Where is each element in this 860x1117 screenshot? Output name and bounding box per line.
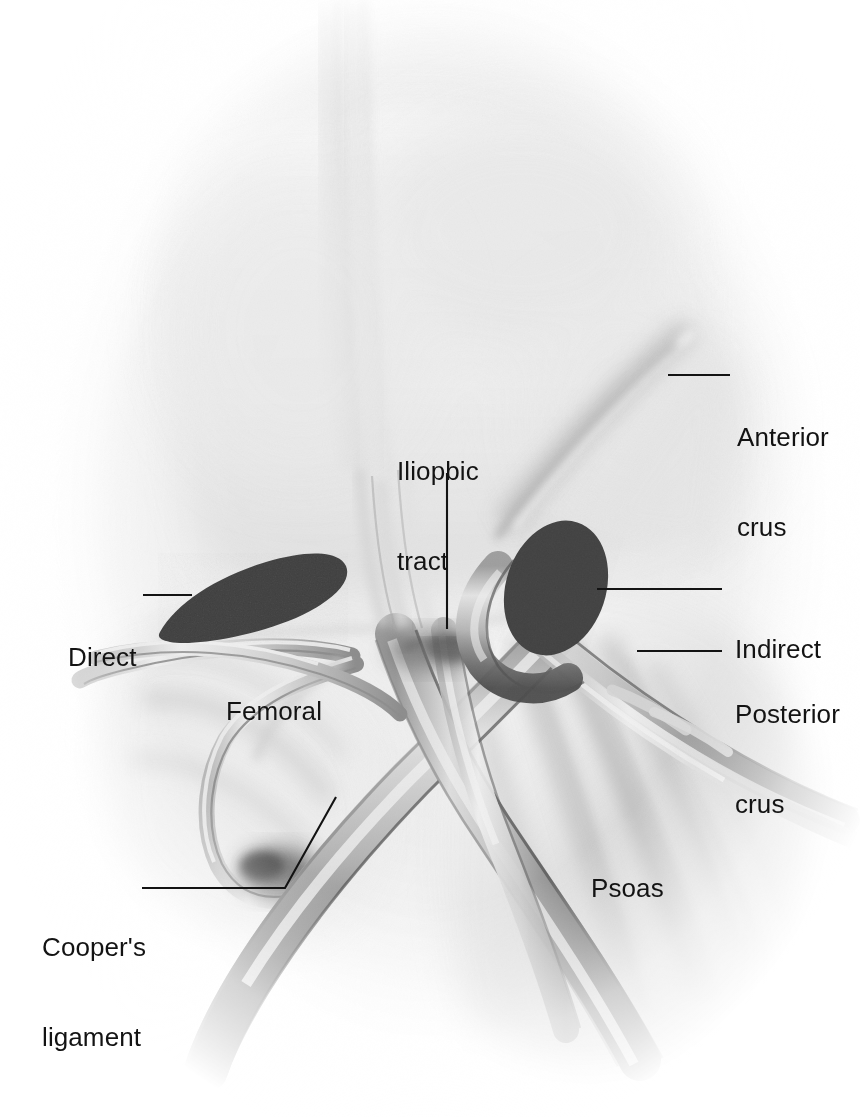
label-iliopubic-tract-line2: tract [397,546,479,576]
label-femoral: Femoral [226,636,322,786]
label-psoas: Psoas [591,813,664,963]
illustration-canvas: Anterior crus Iliopbic tract Direct Indi… [0,0,860,1117]
label-posterior-crus: Posterior crus [735,639,840,879]
label-anterior-crus: Anterior crus [737,362,829,602]
label-iliopubic-tract: Iliopbic tract [397,396,479,636]
label-direct-line1: Direct [68,642,137,672]
label-posterior-crus-line1: Posterior [735,699,840,729]
label-iliopubic-tract-line1: Iliopbic [397,456,479,486]
label-coopers-ligament-line1: Cooper's [42,932,146,962]
label-direct: Direct [68,582,137,732]
label-psoas-line1: Psoas [591,873,664,903]
label-coopers-ligament: Cooper's ligament [42,872,146,1112]
label-coopers-ligament-line2: ligament [42,1022,146,1052]
label-anterior-crus-line1: Anterior [737,422,829,452]
label-anterior-crus-line2: crus [737,512,829,542]
label-femoral-line1: Femoral [226,696,322,726]
label-posterior-crus-line2: crus [735,789,840,819]
